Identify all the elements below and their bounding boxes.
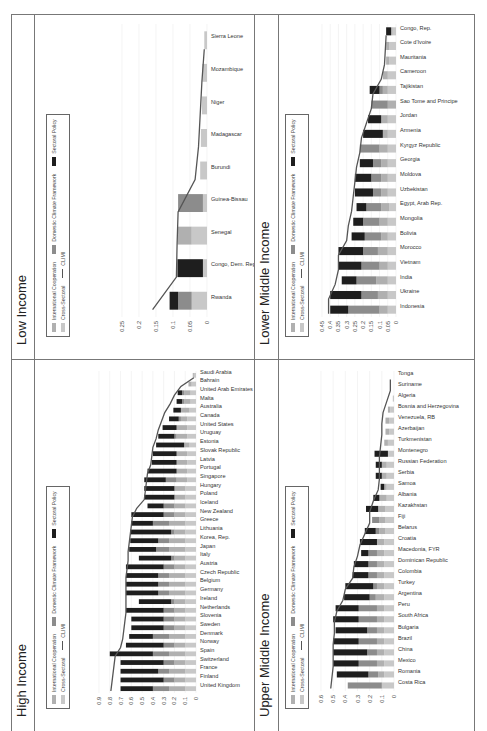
bar-sectoral-policy [126,591,158,596]
bar-cross-sectoral [185,512,196,517]
panel-title: Upper Middle Income [257,593,272,717]
category-label: Belgium [200,577,221,583]
bar-international-cooperation [377,649,384,655]
bar-cross-sectoral [185,686,196,691]
legend-label: International Cooperation [290,262,296,320]
category-label: Malta [200,395,215,401]
bar-sectoral-policy [355,174,371,182]
bar-international-cooperation [174,556,185,561]
y-tick-label: 0.4 [342,695,348,703]
bar-sectoral-policy [344,594,370,600]
bar-sectoral-policy [131,617,163,622]
category-label: Portugal [200,464,221,470]
legend-label: CLIMI [299,624,305,638]
bar-sectoral-policy [126,608,164,613]
legend-item-intl: International Cooperation [290,262,296,332]
bar-international-cooperation [386,42,389,50]
legend-label: International Cooperation [51,262,57,320]
bar-international-cooperation [174,625,185,630]
bar-sectoral-policy [131,521,153,526]
bar-domestic-climate-framework [153,521,169,526]
legend-item-sect: Sectoral Policy [290,491,296,537]
legend-item-dom: Domestic Climate Framework [290,546,296,626]
bar-sectoral-policy [386,27,391,35]
bar-international-cooperation [174,599,185,604]
y-tick-label: 0.3 [355,695,361,703]
legend-label: CLIMI [60,252,66,266]
bar-cross-sectoral [384,627,394,633]
y-tick-label: 0.35 [335,321,341,332]
y-tick-label: 0.1 [379,695,385,703]
bar-cross-sectoral [185,617,196,622]
bar-cross-sectoral [388,144,396,152]
bar-cross-sectoral [185,564,196,569]
bar-cross-sectoral [388,188,396,196]
bar-international-cooperation [378,247,388,255]
bar-cross-sectoral [384,605,394,611]
bar-domestic-climate-framework [171,530,174,535]
bar-sectoral-policy [333,616,359,622]
bar-domestic-climate-framework [158,538,169,543]
bar-international-cooperation [169,521,185,526]
bar-cross-sectoral [384,550,394,556]
bar-sectoral-policy [152,460,177,465]
bar-sectoral-policy [355,188,373,196]
bar-domestic-climate-framework [371,174,381,182]
color-swatch-icon [291,529,295,538]
bar-domestic-climate-framework [373,188,381,196]
bar-international-cooperation [169,651,185,656]
bar-cross-sectoral [388,451,394,457]
y-tick-label: 0.4 [150,697,156,705]
bar-cross-sectoral [185,521,196,526]
bar-sectoral-policy [131,512,163,517]
bar-cross-sectoral [185,538,196,543]
color-swatch-icon [61,323,65,332]
bar-cross-sectoral [201,129,207,147]
bar-domestic-climate-framework [158,591,169,596]
category-label: India [400,274,413,280]
category-label: Venezuela, RB [398,414,435,420]
bar-cross-sectoral [384,660,394,666]
bar-international-cooperation [383,71,388,79]
color-swatch-icon [300,323,304,332]
bar-international-cooperation [384,484,386,490]
bar-cross-sectoral [384,671,394,677]
category-label: Korea, Rep. [200,534,230,540]
bar-domestic-climate-framework [164,625,175,630]
category-label: Bahrain [200,377,219,383]
category-label: Ukraine [400,288,419,294]
bar-cross-sectoral [389,429,394,435]
y-tick-label: 0.25 [119,321,125,332]
bar-cross-sectoral [190,408,196,413]
bar-international-cooperation [184,443,189,448]
y-tick-label: 0 [204,321,210,324]
bar-international-cooperation [383,86,388,94]
y-tick-label: 0.2 [171,697,177,705]
bar-sectoral-policy [148,469,177,474]
bar-domestic-climate-framework [153,686,169,691]
bar-international-cooperation [381,188,388,196]
panel-lower-middle-income: Lower Middle Income 00.050.10.150.20.250… [254,14,474,359]
bar-cross-sectoral [185,678,196,683]
bar-cross-sectoral [385,528,394,534]
category-label: Bulgaria [398,624,419,630]
category-label: Congo, Rep. [400,25,432,31]
bar-cross-sectoral [187,460,196,465]
category-label: Jordan [400,112,417,118]
bar-domestic-climate-framework [360,144,380,152]
bar-domestic-climate-framework [368,550,377,556]
bar-cross-sectoral [191,390,196,395]
line-swatch-icon [301,641,303,650]
bar-international-cooperation [174,608,185,613]
legend: International CooperationDomestic Climat… [285,114,309,337]
category-label: Uzbekistan [400,186,428,192]
bar-cross-sectoral [185,547,196,552]
bar-cross-sectoral [388,276,396,284]
panel-title: High Income [14,644,29,717]
category-label: Bolivia [400,230,417,236]
panel-title: Low Income [14,275,29,345]
bar-international-cooperation [378,506,385,512]
bar-sectoral-policy [163,425,177,430]
bar-sectoral-policy [337,671,369,677]
y-tick-label: 0.3 [344,321,350,329]
